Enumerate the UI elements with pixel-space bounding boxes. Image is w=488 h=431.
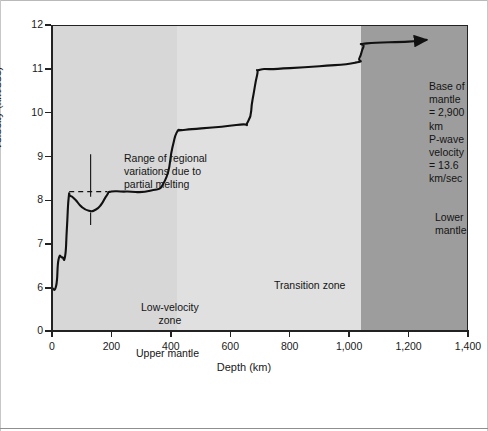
y-tick-8: [45, 200, 51, 201]
y-tick-label-11: 11: [0, 62, 43, 74]
y-tick-10: [45, 112, 51, 113]
y-tick-label-10: 10: [0, 106, 43, 118]
y-tick-0: [45, 330, 51, 331]
y-tick-label-9: 9: [0, 150, 43, 162]
x-tick-400: [170, 331, 171, 337]
x-tick-label-800: 800: [281, 340, 299, 352]
y-tick-7: [45, 243, 51, 244]
y-tick-11: [45, 68, 51, 69]
x-tick-label-0: 0: [49, 340, 55, 352]
p-wave-velocity-curve: [52, 40, 426, 290]
x-tick-label-600: 600: [222, 340, 240, 352]
x-tick-label-1000: 1,000: [336, 340, 362, 352]
x-tick-label-1400: 1,400: [455, 340, 481, 352]
x-tick-1400: [467, 331, 468, 337]
annotation-base-of-mantle: Base of mantle = 2,900 km P-wave velocit…: [429, 80, 468, 186]
x-tick-1200: [408, 331, 409, 337]
y-tick-label-7: 7: [0, 237, 43, 249]
x-tick-0: [51, 331, 52, 337]
x-tick-200: [111, 331, 112, 337]
page-border-top: [0, 0, 488, 1]
y-tick-label-0: 0: [0, 324, 43, 336]
x-tick-800: [289, 331, 290, 337]
y-axis-line: [51, 25, 53, 331]
y-tick-6: [45, 287, 51, 288]
annotation-low-velocity-zone: Low-velocity zone: [141, 301, 199, 327]
y-tick-12: [45, 24, 51, 25]
x-tick-1000: [348, 331, 349, 337]
y-axis-title: Velocity (km/sec): [0, 10, 3, 150]
x-tick-label-1200: 1,200: [395, 340, 421, 352]
x-tick-label-400: 400: [162, 340, 180, 352]
plot-area: Upper mantle Transition zone Lower mantl…: [52, 25, 468, 331]
y-tick-label-6: 6: [0, 281, 43, 293]
y-tick-label-8: 8: [0, 193, 43, 205]
page-border-bottom: [0, 428, 488, 429]
y-tick-9: [45, 156, 51, 157]
annotation-regional-variations: Range of regional variations due to part…: [124, 152, 207, 192]
zone-label-lower-mantle: Lower mantle: [435, 211, 468, 237]
x-tick-600: [230, 331, 231, 337]
x-axis-line: [51, 330, 469, 332]
zone-label-transition-zone: Transition zone: [274, 279, 345, 292]
velocity-curve-svg: [52, 25, 468, 331]
figure-page: Upper mantle Transition zone Lower mantl…: [0, 0, 488, 431]
x-axis-title: Depth (km): [0, 361, 488, 373]
y-tick-label-12: 12: [0, 18, 43, 30]
x-tick-label-200: 200: [103, 340, 121, 352]
